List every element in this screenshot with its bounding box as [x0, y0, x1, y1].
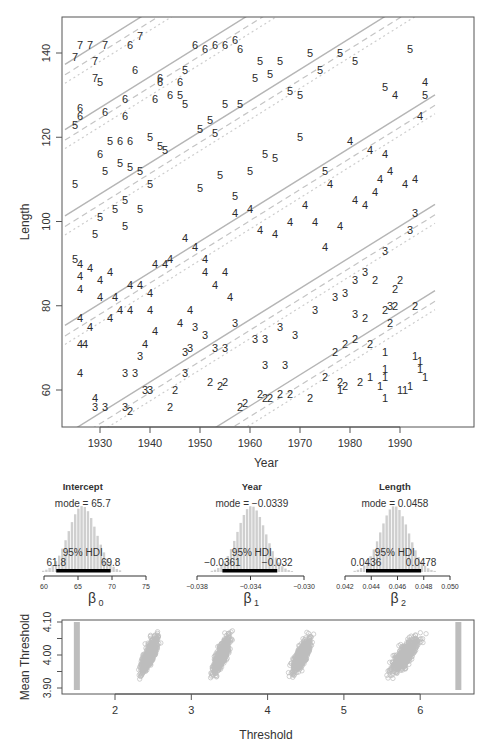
data-point-label: 3 — [262, 333, 268, 345]
data-point-label: 5 — [422, 89, 428, 101]
data-point-label: 5 — [102, 165, 108, 177]
y-axis: 6080100120140 — [40, 44, 62, 396]
data-point-label: 4 — [287, 216, 293, 228]
data-point-label: 4 — [87, 321, 93, 333]
data-point-label: 5 — [127, 161, 133, 173]
data-point-label: 4 — [402, 178, 408, 190]
x-tick-label: 0.050 — [441, 583, 459, 590]
data-point-label: 4 — [117, 304, 123, 316]
hdi-low-label: 61.8 — [47, 557, 67, 568]
data-point-label: 3 — [192, 321, 198, 333]
data-point-label: 4 — [192, 241, 198, 253]
histogram-title: Length — [379, 481, 411, 492]
y-axis: 3.904.004.10 — [41, 612, 62, 699]
data-point-label: 5 — [117, 157, 123, 169]
data-point-label: 7 — [72, 51, 78, 63]
x-axis: 1930194019501960197019801990 — [88, 427, 412, 449]
histogram-bar — [398, 510, 400, 572]
data-point-label: 4 — [107, 266, 113, 278]
data-point-label: 4 — [367, 144, 373, 156]
data-point-label: 4 — [77, 270, 83, 282]
data-point-label: 5 — [277, 55, 283, 67]
data-point-label: 5 — [322, 165, 328, 177]
x-tick-label: 65 — [74, 583, 82, 590]
hdi-low-label: 0.0436 — [351, 557, 382, 568]
histogram-bar — [243, 515, 245, 572]
data-point-label: 2 — [277, 388, 283, 400]
data-point-label: 3 — [182, 367, 188, 379]
data-point-label: 5 — [232, 190, 238, 202]
x-tick-label: 70 — [108, 583, 116, 590]
data-point-label: 5 — [147, 131, 153, 143]
data-point-label: 3 — [277, 321, 283, 333]
data-point-label: 3 — [132, 367, 138, 379]
data-point-label: 4 — [372, 186, 378, 198]
data-point-label: 5 — [297, 89, 303, 101]
x-tick-label: 75 — [142, 583, 150, 590]
threshold-lines — [65, 0, 435, 540]
data-point-label: 4 — [177, 317, 183, 329]
mode-label: mode = −0.0339 — [215, 498, 288, 509]
histogram-bar — [357, 570, 359, 572]
histogram-bar — [284, 569, 286, 572]
data-point-label: 5 — [162, 144, 168, 156]
data-point-label: 2 — [332, 346, 338, 358]
x-axis-label: Threshold — [239, 728, 292, 742]
data-point-label: 4 — [387, 165, 393, 177]
data-point-label: 5 — [147, 178, 153, 190]
histogram-bar — [360, 568, 362, 572]
data-point-label: 3 — [137, 350, 143, 362]
data-point-label: 3 — [202, 329, 208, 341]
data-point-label: 4 — [107, 312, 113, 324]
hdi-bar — [366, 569, 421, 573]
data-point-label: 6 — [237, 43, 243, 55]
x-tick-label: 1930 — [88, 437, 112, 449]
histogram-bar — [433, 571, 435, 572]
data-point-label: 5 — [182, 64, 188, 76]
histogram-bar — [392, 506, 394, 572]
data-point-label: 3 — [187, 342, 193, 354]
data-point-label: 1 — [422, 371, 428, 383]
data-point-label: 3 — [292, 329, 298, 341]
data-point-label: 4 — [272, 228, 278, 240]
data-point-label: 5 — [107, 135, 113, 147]
data-point-label: 6 — [222, 39, 228, 51]
threshold-line — [65, 204, 435, 435]
histogram-panel-year: Yearmode = −0.033995% HDI−0.0361−0.032−0… — [186, 481, 315, 608]
data-point-label: 5 — [197, 182, 203, 194]
data-point-label: 6 — [157, 76, 163, 88]
data-point-label: 4 — [202, 253, 208, 265]
data-point-label: 4 — [327, 178, 333, 190]
x-tick-label: 5 — [341, 704, 347, 716]
data-point-label: 4 — [382, 148, 388, 160]
x-tick-label: 3 — [188, 704, 194, 716]
threshold-cluster — [286, 630, 316, 679]
histogram-bar — [87, 511, 89, 572]
data-point-label: 6 — [127, 39, 133, 51]
data-point-label: 5 — [97, 211, 103, 223]
data-point-label: 6 — [122, 93, 128, 105]
data-point-label: 5 — [217, 169, 223, 181]
data-point-label: 5 — [137, 203, 143, 215]
data-point-label: 4 — [127, 304, 133, 316]
data-point-label: 2 — [357, 376, 363, 388]
hdi-high-label: 0.0478 — [406, 557, 437, 568]
histogram-panel-length: Lengthmode = 0.045895% HDI0.04360.04780.… — [336, 481, 459, 608]
data-point-label: 4 — [422, 76, 428, 88]
histogram-bar — [249, 506, 251, 572]
data-point-label: 3 — [352, 308, 358, 320]
data-point-label: 2 — [382, 304, 388, 316]
data-point-label: 3 — [282, 359, 288, 371]
histogram-bar — [217, 568, 219, 572]
x-tick-label: 0.042 — [336, 583, 354, 590]
data-point-label: 6 — [167, 89, 173, 101]
figure: 7777777666666666666666666666555555555555… — [0, 0, 493, 745]
data-point-label: 4 — [222, 266, 228, 278]
histogram-bar — [252, 507, 254, 572]
x-axis: 23456 — [112, 694, 423, 716]
data-point-label: 5 — [207, 114, 213, 126]
histogram-bar — [116, 569, 118, 572]
data-point-label: 6 — [122, 110, 128, 122]
x-tick-label: 2 — [112, 704, 118, 716]
x-tick-label: 0.046 — [389, 583, 407, 590]
